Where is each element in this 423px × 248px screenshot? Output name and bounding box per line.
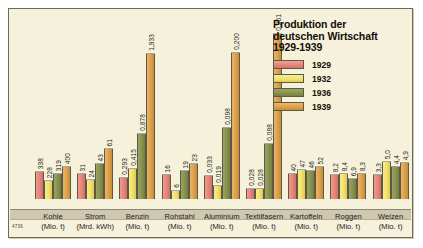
legend-item-1936[interactable]: 1936: [273, 88, 401, 98]
bar-weizen-1929[interactable]: 3,3: [373, 174, 382, 199]
bar-top-highlight: [162, 173, 171, 175]
bar-benzin-1929[interactable]: 0,293: [119, 177, 128, 199]
bar-aluminium-1932[interactable]: 0,019: [213, 185, 222, 199]
bar-strom-1929[interactable]: 31: [77, 173, 86, 199]
bar-value-label: 0,028: [247, 169, 256, 186]
bar-group-rohstahl: 1661923: [162, 163, 198, 199]
bar-body: [77, 173, 86, 199]
bar-body: [180, 170, 189, 199]
bar-value-label: 52: [316, 157, 325, 164]
bar-body: [222, 127, 231, 199]
bar-top-highlight: [222, 126, 231, 128]
bar-body: [382, 161, 391, 199]
bar-top-highlight: [315, 165, 324, 167]
bar-body: [86, 179, 95, 199]
chart-title-line-2: 1929-1939: [273, 42, 401, 54]
bar-top-highlight: [171, 189, 180, 191]
bar-body: [128, 168, 137, 199]
bar-benzin-1939[interactable]: 1,933: [146, 53, 155, 199]
x-axis-label-name: Kohle: [43, 212, 62, 221]
bar-top-highlight: [288, 172, 297, 174]
bar-body: [119, 177, 128, 199]
bar-kohle-1939[interactable]: 400: [62, 166, 71, 199]
bar-group-weizen: 3,35,04,44,9: [373, 161, 409, 199]
bar-textilfasern-1932[interactable]: 0,028: [255, 188, 264, 199]
bar-kohle-1932[interactable]: 228: [44, 180, 53, 199]
bar-strom-1939[interactable]: 61: [104, 148, 113, 199]
bar-body: [137, 133, 146, 199]
bar-body: [339, 173, 348, 199]
legend-item-1929[interactable]: 1929: [273, 60, 401, 70]
bar-weizen-1932[interactable]: 5,0: [382, 161, 391, 199]
bar-group-kohle: 338228319400: [35, 166, 71, 199]
bar-body: [104, 148, 113, 199]
bar-kohle-1936[interactable]: 319: [53, 173, 62, 199]
bar-aluminium-1929[interactable]: 0,033: [204, 175, 213, 199]
bar-aluminium-1936[interactable]: 0,098: [222, 127, 231, 199]
bar-textilfasern-1936[interactable]: 0,088: [264, 143, 273, 199]
bar-body: [315, 166, 324, 199]
bar-rohstahl-1936[interactable]: 19: [180, 170, 189, 199]
bar-strom-1936[interactable]: 43: [95, 163, 104, 199]
bar-roggen-1936[interactable]: 6,9: [348, 178, 357, 199]
bar-group-aluminium: 0,0330,0190,0980,200: [204, 52, 240, 199]
bar-body: [204, 175, 213, 199]
bar-top-highlight: [255, 187, 264, 189]
bar-body: [44, 180, 53, 199]
bar-strom-1932[interactable]: 24: [86, 179, 95, 199]
bar-rohstahl-1932[interactable]: 6: [171, 190, 180, 199]
bar-body: [373, 174, 382, 199]
legend-item-1932[interactable]: 1932: [273, 74, 401, 84]
bar-kartoffeln-1936[interactable]: 46: [306, 170, 315, 199]
bar-top-highlight: [180, 169, 189, 171]
x-axis-label-name: Benzin: [126, 212, 149, 221]
bar-rohstahl-1939[interactable]: 23: [189, 163, 198, 199]
corner-code: 4736: [12, 224, 23, 229]
x-axis-label-name: Roggen: [335, 212, 362, 221]
bar-roggen-1932[interactable]: 8,4: [339, 173, 348, 199]
bar-value-label: 0,200: [232, 33, 241, 50]
x-axis-label-name: Weizen: [378, 212, 403, 221]
bar-top-highlight: [330, 173, 339, 175]
bar-body: [297, 169, 306, 199]
bar-top-highlight: [77, 172, 86, 174]
bar-textilfasern-1929[interactable]: 0,028: [246, 188, 255, 199]
bar-kartoffeln-1932[interactable]: 47: [297, 169, 306, 199]
bar-weizen-1936[interactable]: 4,4: [391, 166, 400, 199]
bar-kohle-1929[interactable]: 338: [35, 171, 44, 199]
bar-top-highlight: [391, 165, 400, 167]
bar-body: [95, 163, 104, 199]
bar-top-highlight: [128, 167, 137, 169]
bar-body: [357, 173, 366, 199]
bar-benzin-1932[interactable]: 0,415: [128, 168, 137, 199]
bar-group-roggen: 8,28,46,98,3: [330, 173, 366, 199]
bar-roggen-1939[interactable]: 8,3: [357, 173, 366, 199]
x-axis-label-name: Strom: [85, 212, 105, 221]
legend-item-1939[interactable]: 1939: [273, 102, 401, 112]
bar-kartoffeln-1939[interactable]: 52: [315, 166, 324, 199]
bar-body: [288, 173, 297, 199]
bar-roggen-1929[interactable]: 8,2: [330, 174, 339, 199]
bar-body: [330, 174, 339, 199]
bar-top-highlight: [119, 176, 128, 178]
bar-top-highlight: [264, 142, 273, 144]
bar-benzin-1936[interactable]: 0,878: [137, 133, 146, 199]
bar-value-label: 8,3: [358, 162, 367, 171]
bar-value-label: 4,9: [401, 151, 410, 160]
bar-weizen-1939[interactable]: 4,9: [400, 162, 409, 199]
legend-swatch-1932: [273, 74, 304, 83]
bar-body: [348, 178, 357, 199]
bar-value-label: 16: [163, 165, 172, 172]
bar-top-highlight: [400, 161, 409, 163]
bar-body: [231, 52, 240, 199]
legend-swatch-1929: [273, 60, 304, 69]
bar-value-label: 47: [298, 160, 307, 167]
bar-kartoffeln-1929[interactable]: 40: [288, 173, 297, 199]
bar-aluminium-1939[interactable]: 0,200: [231, 52, 240, 199]
bar-top-highlight: [146, 52, 155, 54]
bar-body: [146, 53, 155, 199]
bar-body: [189, 163, 198, 199]
bar-rohstahl-1929[interactable]: 16: [162, 174, 171, 199]
bar-top-highlight: [204, 174, 213, 176]
bar-body: [35, 171, 44, 199]
